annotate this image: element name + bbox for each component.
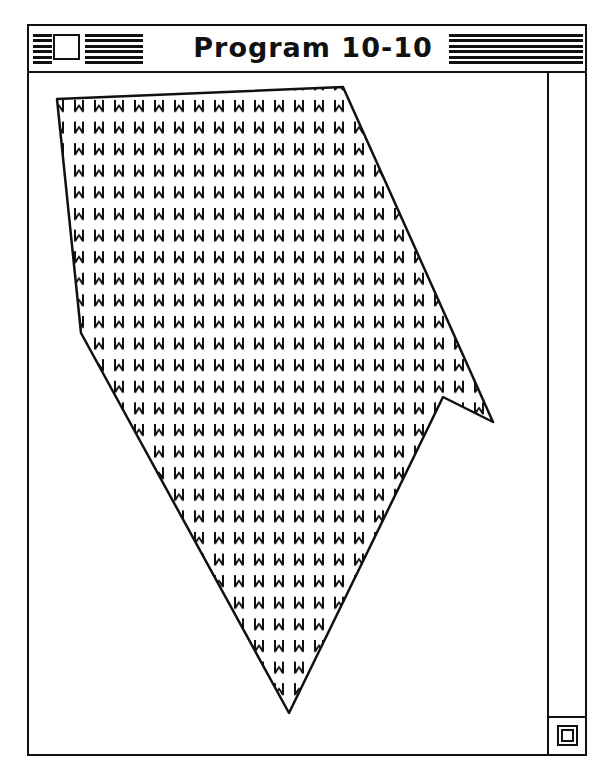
patterned-polygon (57, 87, 493, 713)
drawing-canvas (0, 0, 611, 775)
